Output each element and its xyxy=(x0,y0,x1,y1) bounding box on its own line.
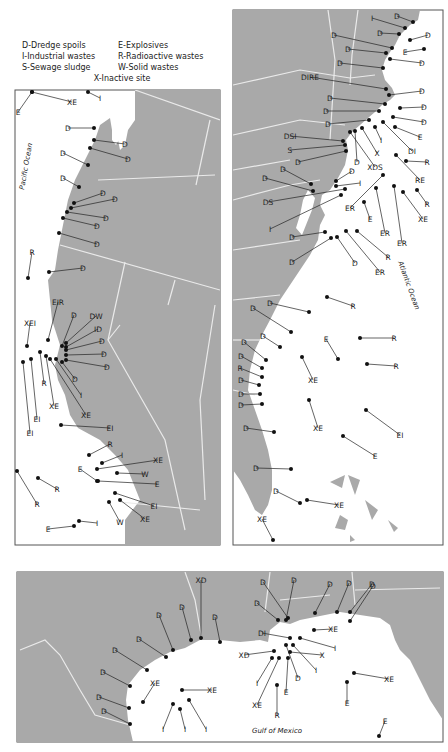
site-dot-icon xyxy=(334,179,338,183)
site-label: ER xyxy=(345,204,355,213)
site-dot-icon xyxy=(364,408,368,412)
site-label: I xyxy=(380,136,382,145)
site-label: EI xyxy=(34,415,41,424)
site-label: DI xyxy=(258,629,266,638)
site-label: DIRE xyxy=(301,73,319,82)
site-dot-icon xyxy=(360,126,364,130)
site-dot-icon xyxy=(264,358,268,362)
site-label: I xyxy=(80,391,82,400)
site-label: I xyxy=(99,94,101,103)
site-dot-icon xyxy=(289,467,293,471)
site-label: E xyxy=(284,688,289,697)
site-label: R xyxy=(424,158,429,167)
site-label: D xyxy=(238,390,244,399)
site-label: D xyxy=(94,240,100,249)
site-dot-icon xyxy=(271,538,275,542)
site-label: E xyxy=(155,480,160,489)
site-dot-icon xyxy=(86,163,90,167)
site-dot-icon xyxy=(277,656,281,660)
site-dot-icon xyxy=(307,398,311,402)
site-label: D xyxy=(212,613,218,622)
site-label: DSI xyxy=(284,132,297,141)
site-label: D xyxy=(421,103,427,112)
site-label: R xyxy=(385,253,390,262)
site-dot-icon xyxy=(344,229,348,233)
site-label: D xyxy=(295,674,301,683)
site-label: W xyxy=(141,470,149,479)
site-label: D xyxy=(60,149,66,158)
site-dot-icon xyxy=(72,201,76,205)
site-dot-icon xyxy=(374,186,378,190)
site-dot-icon xyxy=(44,354,48,358)
site-label: R xyxy=(34,500,39,509)
site-label: D xyxy=(100,668,106,677)
site-dot-icon xyxy=(348,619,352,623)
site-dot-icon xyxy=(30,90,34,94)
site-dot-icon xyxy=(145,668,149,672)
site-label: I xyxy=(162,725,164,734)
site-label: D xyxy=(250,304,256,313)
site-dot-icon xyxy=(348,130,352,134)
site-dot-icon xyxy=(141,700,145,704)
site-label: XD xyxy=(239,651,250,660)
site-dot-icon xyxy=(398,106,402,110)
site-label: E xyxy=(373,452,378,461)
site-dot-icon xyxy=(276,618,280,622)
site-label: D xyxy=(260,332,266,341)
site-label: ER xyxy=(380,229,390,238)
site-dot-icon xyxy=(355,229,359,233)
site-label: D xyxy=(345,45,351,54)
site-label: XE xyxy=(313,424,323,433)
site-label: D xyxy=(122,140,128,149)
site-dot-icon xyxy=(92,138,96,142)
site-label: EIR xyxy=(52,298,64,307)
site-label: R xyxy=(424,200,429,209)
west-coast-panel: Pacific Ocean xyxy=(15,90,220,545)
site-dot-icon xyxy=(64,341,68,345)
site-label: XE xyxy=(384,675,394,684)
site-dot-icon xyxy=(383,102,387,106)
site-label: I xyxy=(334,644,336,653)
site-dot-icon xyxy=(381,173,385,177)
site-label: ER xyxy=(375,268,385,277)
site-label: R xyxy=(107,440,112,449)
site-label: E xyxy=(403,48,408,57)
site-dot-icon xyxy=(60,344,64,348)
site-dot-icon xyxy=(336,357,340,361)
site-label: E xyxy=(383,717,388,726)
site-label: D xyxy=(325,120,331,129)
site-dot-icon xyxy=(329,236,333,240)
site-label: I xyxy=(315,666,317,675)
site-dot-icon xyxy=(312,628,316,632)
site-label: R xyxy=(391,334,396,343)
site-dot-icon xyxy=(96,479,100,483)
site-dot-icon xyxy=(257,383,261,387)
site-label: D xyxy=(94,222,100,231)
site-label: X xyxy=(374,149,379,158)
site-label: I xyxy=(269,225,271,234)
site-label: D xyxy=(425,31,431,40)
site-dot-icon xyxy=(260,366,264,370)
site-label: XE xyxy=(81,411,91,420)
site-dot-icon xyxy=(392,184,396,188)
site-dot-icon xyxy=(384,51,388,55)
site-label: XEI xyxy=(24,319,36,328)
site-dot-icon xyxy=(358,336,362,340)
site-dot-icon xyxy=(260,402,264,406)
site-dot-icon xyxy=(61,216,65,220)
site-label: XE xyxy=(150,679,160,688)
site-label: D xyxy=(100,189,106,198)
site-dot-icon xyxy=(344,149,348,153)
site-label: XE xyxy=(308,376,318,385)
site-label: DI xyxy=(408,147,416,156)
site-dot-icon xyxy=(77,185,81,189)
site-label: ER xyxy=(397,239,407,248)
site-dot-icon xyxy=(164,655,168,659)
site-dot-icon xyxy=(189,638,193,642)
site-label: D xyxy=(289,233,295,242)
site-label: D xyxy=(71,311,77,320)
site-dot-icon xyxy=(353,129,357,133)
site-dot-icon xyxy=(47,270,51,274)
site-label: D xyxy=(80,264,86,273)
site-label: D xyxy=(323,107,329,116)
